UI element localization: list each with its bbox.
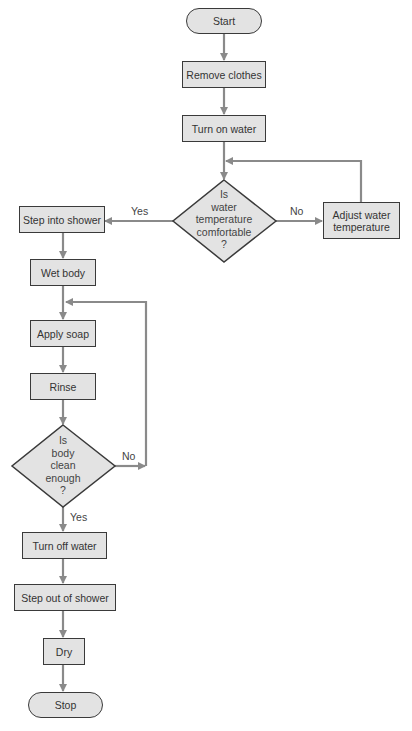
apply-soap-label: Apply soap	[37, 328, 89, 340]
rinse-step: Rinse	[30, 373, 96, 400]
stop-label: Stop	[55, 699, 77, 711]
temp-yes-label: Yes	[131, 205, 148, 217]
start-label: Start	[213, 15, 235, 27]
decision-line: temperature	[174, 213, 274, 226]
remove-clothes-step: Remove clothes	[182, 61, 266, 88]
clean-yes-label: Yes	[70, 511, 87, 523]
decision-clean-text: Is body clean enough ?	[13, 434, 113, 497]
turn-on-water-step: Turn on water	[182, 115, 266, 142]
turn-on-water-label: Turn on water	[192, 123, 256, 135]
adjust-water-line: Adjust water	[333, 209, 391, 221]
decision-line: ?	[13, 484, 113, 497]
wet-body-step: Wet body	[30, 259, 96, 286]
connectors	[0, 0, 412, 731]
stop-terminal: Stop	[28, 692, 103, 718]
clean-no-label: No	[122, 450, 135, 462]
start-terminal: Start	[186, 8, 262, 34]
apply-soap-step: Apply soap	[30, 320, 96, 347]
temp-no-label: No	[290, 205, 303, 217]
rinse-label: Rinse	[50, 381, 77, 393]
decision-line: enough	[13, 472, 113, 485]
decision-line: water	[174, 201, 274, 214]
step-into-shower-label: Step into shower	[23, 214, 101, 226]
wet-body-label: Wet body	[41, 267, 85, 279]
adjust-water-line: temperature	[333, 221, 390, 233]
decision-line: Is	[174, 188, 274, 201]
decision-line: Is	[13, 434, 113, 447]
turn-off-water-label: Turn off water	[32, 540, 96, 552]
dry-label: Dry	[56, 646, 72, 658]
decision-line: comfortable	[174, 226, 274, 239]
step-out-label: Step out of shower	[21, 592, 109, 604]
decision-line: ?	[174, 238, 274, 251]
decision-line: body	[13, 447, 113, 460]
remove-clothes-label: Remove clothes	[186, 69, 261, 81]
step-out-of-shower-step: Step out of shower	[14, 584, 116, 611]
step-into-shower-step: Step into shower	[19, 206, 105, 233]
dry-step: Dry	[43, 638, 85, 665]
adjust-water-step: Adjust water temperature	[323, 202, 400, 239]
turn-off-water-step: Turn off water	[22, 532, 107, 559]
decision-line: clean	[13, 459, 113, 472]
decision-temperature-text: Is water temperature comfortable ?	[174, 188, 274, 251]
